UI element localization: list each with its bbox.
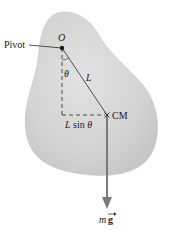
physical-pendulum-diagram: Pivot O θ L L sin θ CM m g [0, 0, 170, 230]
svg-text:g: g [108, 214, 113, 225]
length-label: L [85, 72, 92, 83]
weight-label: m g [99, 212, 117, 225]
pivot-label: Pivot [4, 39, 25, 50]
cm-label: CM [112, 110, 128, 121]
weight-arrow-head [102, 197, 112, 209]
pivot-dot [60, 46, 64, 50]
angle-label: θ [64, 68, 69, 79]
origin-label: O [58, 32, 65, 43]
rigid-body [25, 12, 157, 175]
lever-arm-label: L sin θ [64, 119, 92, 130]
svg-text:m: m [99, 214, 106, 225]
